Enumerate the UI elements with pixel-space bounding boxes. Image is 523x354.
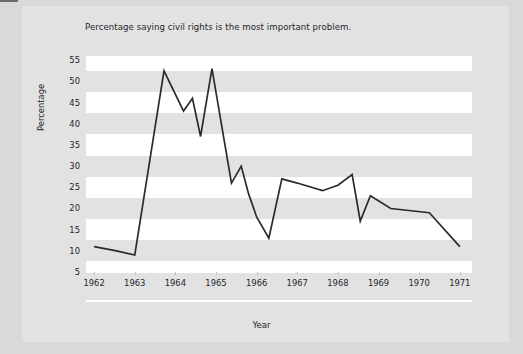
margin-artifact-text-1: r xyxy=(0,150,16,159)
y-tick-label: 25 xyxy=(56,182,80,192)
chart-title: Percentage saying civil rights is the mo… xyxy=(85,22,351,32)
x-tick-mark xyxy=(460,272,461,275)
y-tick-label: 10 xyxy=(56,246,80,256)
x-tick-mark xyxy=(257,272,258,275)
x-tick-label: 1966 xyxy=(237,278,277,288)
x-tick-label: 1969 xyxy=(359,278,399,288)
x-tick-label: 1967 xyxy=(277,278,317,288)
y-tick-label: 50 xyxy=(56,76,80,86)
x-tick-mark xyxy=(297,272,298,275)
x-tick-label: 1968 xyxy=(318,278,358,288)
x-tick-mark xyxy=(379,272,380,275)
y-tick-label: 40 xyxy=(56,119,80,129)
margin-artifact-rule xyxy=(0,0,18,2)
data-line-series xyxy=(86,56,472,272)
plot-area xyxy=(86,56,472,272)
x-tick-mark xyxy=(135,272,136,275)
x-tick-label: 1971 xyxy=(440,278,480,288)
y-tick-label: 5 xyxy=(56,267,80,277)
y-tick-label: 55 xyxy=(56,55,80,65)
x-tick-label: 1962 xyxy=(74,278,114,288)
y-tick-label: 15 xyxy=(56,225,80,235)
y-tick-label: 35 xyxy=(56,140,80,150)
y-tick-label: 20 xyxy=(56,203,80,213)
x-tick-mark xyxy=(419,272,420,275)
y-tick-label: 45 xyxy=(56,98,80,108)
x-axis-tick-labels: 1962196319641965196619671968196919701971 xyxy=(86,272,472,302)
y-axis-tick-labels: 510152025303540455055 xyxy=(56,56,80,272)
x-tick-label: 1964 xyxy=(155,278,195,288)
margin-artifact-text-2: s xyxy=(0,196,16,205)
x-tick-label: 1963 xyxy=(115,278,155,288)
x-axis-title: Year xyxy=(0,320,523,330)
y-axis-title: Percentage xyxy=(36,84,46,131)
x-tick-label: 1970 xyxy=(399,278,439,288)
x-axis-bottom-rule xyxy=(86,300,472,302)
x-tick-mark xyxy=(94,272,95,275)
x-tick-mark xyxy=(175,272,176,275)
x-tick-mark xyxy=(216,272,217,275)
figure-page: r s Percentage saying civil rights is th… xyxy=(0,0,523,354)
x-tick-label: 1965 xyxy=(196,278,236,288)
y-tick-label: 30 xyxy=(56,161,80,171)
x-tick-mark xyxy=(338,272,339,275)
